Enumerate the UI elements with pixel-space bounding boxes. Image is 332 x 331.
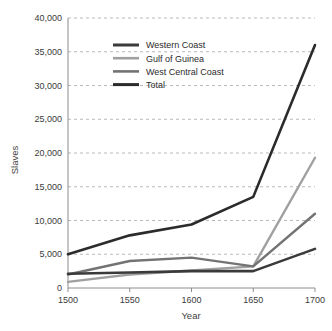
series-line: [68, 249, 315, 274]
legend-label: Gulf of Guinea: [146, 54, 204, 64]
x-tick-label: 1500: [58, 295, 78, 305]
chart-legend: Western CoastGulf of GuineaWest Central …: [113, 40, 224, 90]
x-tick-label: 1650: [243, 295, 263, 305]
x-tick-marks: [68, 288, 315, 292]
y-tick-label: 30,000: [34, 81, 62, 91]
x-tick-label: 1600: [181, 295, 201, 305]
legend-label: West Central Coast: [146, 67, 224, 77]
y-tick-label: 35,000: [34, 47, 62, 57]
x-tick-label: 1550: [120, 295, 140, 305]
x-axis-title: Year: [181, 310, 200, 321]
y-tick-label: 5,000: [39, 249, 62, 259]
y-tick-label: 15,000: [34, 182, 62, 192]
chart-canvas: 05,00010,00015,00020,00025,00030,00035,0…: [0, 0, 332, 331]
series-lines: [68, 45, 315, 282]
legend-label: Total: [146, 80, 165, 90]
x-tick-labels: 15001550160016501700: [58, 295, 325, 305]
y-tick-label: 20,000: [34, 148, 62, 158]
legend-label: Western Coast: [146, 40, 206, 50]
y-tick-label: 40,000: [34, 13, 62, 23]
y-axis-title: Slaves: [9, 145, 20, 174]
y-tick-labels: 05,00010,00015,00020,00025,00030,00035,0…: [34, 13, 62, 293]
x-tick-label: 1700: [305, 295, 325, 305]
y-tick-label: 25,000: [34, 114, 62, 124]
y-tick-label: 10,000: [34, 216, 62, 226]
y-tick-label: 0: [57, 283, 62, 293]
line-chart: 05,00010,00015,00020,00025,00030,00035,0…: [0, 0, 332, 331]
